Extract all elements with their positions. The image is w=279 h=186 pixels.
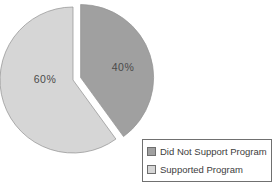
- pie-data-label-0: 40%: [112, 61, 135, 73]
- legend-swatch-dark-icon: [147, 147, 156, 156]
- legend-item-supported: Supported Program: [147, 165, 271, 175]
- legend-item-did-not-support: Did Not Support Program: [147, 147, 271, 157]
- pie-chart-figure: 40%60% Did Not Support Program Supported…: [0, 0, 279, 186]
- legend-label: Did Not Support Program: [160, 147, 267, 157]
- pie-data-label-1: 60%: [34, 73, 57, 85]
- legend: Did Not Support Program Supported Progra…: [142, 139, 272, 182]
- legend-swatch-light-icon: [147, 165, 156, 174]
- legend-label: Supported Program: [160, 165, 243, 175]
